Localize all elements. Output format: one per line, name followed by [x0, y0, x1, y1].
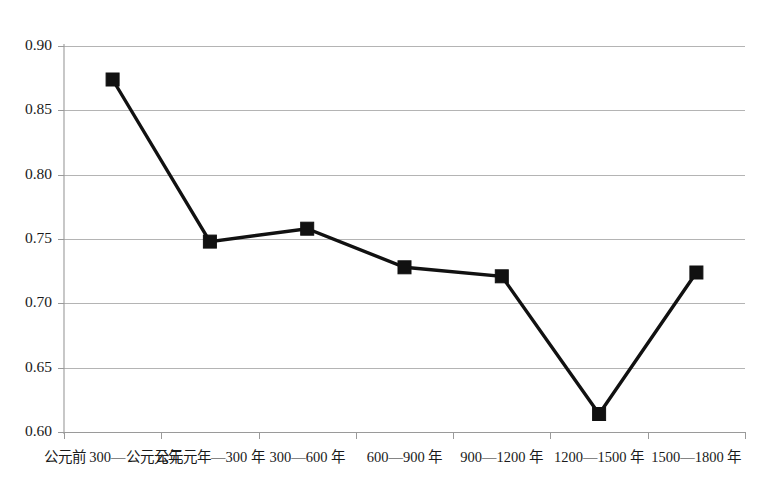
data-point-marker [593, 408, 606, 421]
data-point-marker [203, 235, 216, 248]
y-axis-tick-label: 0.80 [25, 165, 52, 182]
chart-canvas: 0.900.850.800.750.700.650.60 公元前 300—公元元… [0, 0, 773, 489]
y-axis-tick-label: 0.65 [25, 358, 52, 375]
x-axis-tick-labels: 公元前 300—公元元年公元元年—300 年300—600 年600—900 年… [44, 449, 742, 465]
x-axis-tick-label: 600—900 年 [367, 449, 443, 465]
y-axis-tick-label: 0.60 [25, 422, 52, 439]
y-axis-tick-label: 0.90 [25, 36, 52, 53]
x-axis-tick-label: 1500—1800 年 [651, 449, 741, 465]
y-axis-tick-label: 0.85 [25, 100, 52, 117]
x-axis-tick-label: 900—1200 年 [460, 449, 543, 465]
y-axis-tick-label: 0.70 [25, 293, 52, 310]
line-chart: 0.900.850.800.750.700.650.60 公元前 300—公元元… [0, 0, 773, 489]
x-axis-tick-label: 300—600 年 [269, 449, 345, 465]
data-point-marker [301, 222, 314, 235]
data-point-marker [495, 270, 508, 283]
x-axis-tick-label: 1200—1500 年 [554, 449, 644, 465]
data-point-marker [398, 261, 411, 274]
data-point-marker [690, 266, 703, 279]
data-point-marker [106, 73, 119, 86]
x-axis-tick-label: 公元元年—300 年 [155, 449, 265, 465]
y-axis-tick-label: 0.75 [25, 229, 52, 246]
